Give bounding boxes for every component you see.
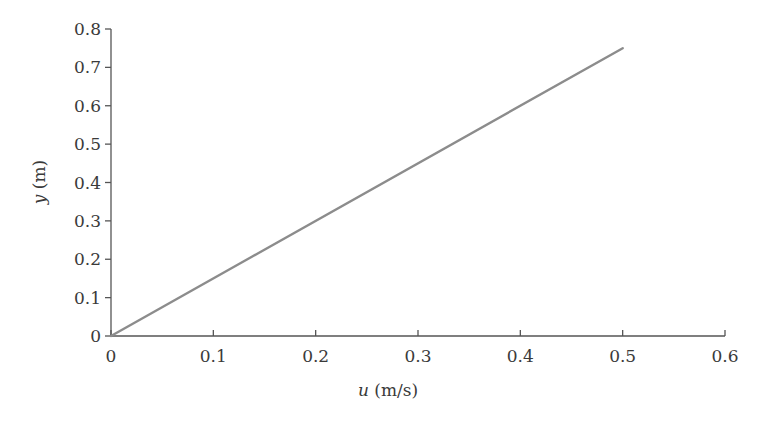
- y-axis-label: y (m): [29, 160, 49, 205]
- x-axis-variable: u: [358, 380, 369, 400]
- x-axis-label: u (m/s): [358, 380, 418, 400]
- y-axis-variable: y: [29, 194, 49, 205]
- line-chart: 00.10.20.30.40.50.60.70.8 00.10.20.30.40…: [0, 0, 771, 424]
- x-tick-label: 0.3: [404, 346, 431, 366]
- y-tick-label: 0.6: [74, 96, 101, 116]
- series-line: [111, 48, 623, 336]
- x-axis: 00.10.20.30.40.50.6: [106, 330, 739, 366]
- y-axis: 00.10.20.30.40.50.60.70.8: [74, 19, 111, 346]
- y-tick-label: 0.3: [74, 211, 101, 231]
- y-tick-label: 0.5: [74, 134, 101, 154]
- y-tick-label: 0.1: [74, 288, 101, 308]
- x-tick-label: 0: [106, 346, 117, 366]
- x-tick-label: 0.4: [507, 346, 534, 366]
- y-tick-label: 0.4: [74, 173, 101, 193]
- y-tick-label: 0.8: [74, 19, 101, 39]
- data-series: [111, 48, 623, 336]
- x-tick-label: 0.1: [200, 346, 227, 366]
- y-tick-label: 0: [90, 326, 101, 346]
- y-tick-label: 0.2: [74, 249, 101, 269]
- x-tick-label: 0.6: [711, 346, 738, 366]
- x-axis-unit: (m/s): [369, 380, 418, 400]
- x-tick-label: 0.2: [302, 346, 329, 366]
- y-tick-label: 0.7: [74, 57, 101, 77]
- x-tick-label: 0.5: [609, 346, 636, 366]
- y-axis-unit: (m): [29, 160, 49, 195]
